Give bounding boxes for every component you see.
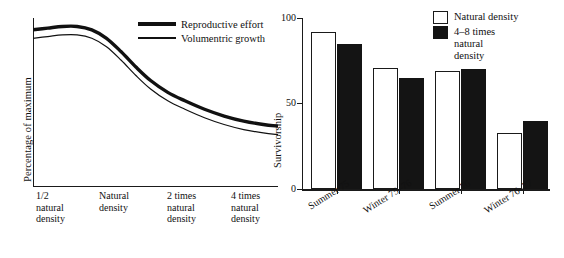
bar-summer-75-filled	[337, 44, 362, 189]
y-tick-label-50: 50	[270, 97, 296, 108]
x-tick-line2: natural	[36, 202, 65, 214]
x-group-tick-mark	[337, 189, 338, 194]
left-x-tick-labels: 1/2 natural density Natural density 2 ti…	[33, 190, 283, 252]
x-tick-label: 1/2 natural density	[36, 190, 65, 225]
x-tick-line1: 4 times	[231, 190, 260, 202]
x-tick-label: 2 times natural density	[167, 190, 196, 225]
y-tick-label-100: 100	[270, 12, 296, 23]
bar-winter-75-76-open	[373, 68, 398, 189]
x-tick-line2: natural	[167, 202, 196, 214]
bar-winter-75-76-filled	[399, 78, 424, 189]
x-group-tick-mark	[399, 189, 400, 194]
legend-label: Natural density	[454, 11, 518, 23]
open-square-swatch-icon	[433, 11, 448, 24]
figure-root: Percentage of maximum Reproductive effor…	[0, 0, 564, 258]
x-tick-line1: 1/2	[36, 190, 65, 202]
left-legend: Reproductive effort Volumentric growth	[138, 17, 280, 45]
legend-item-4-8-times-natural-density: 4–8 times natural density	[433, 26, 561, 63]
x-tick-line3: density	[36, 213, 65, 225]
x-tick-line3: density	[167, 213, 196, 225]
x-tick-label: Natural density	[99, 190, 129, 213]
legend-item-reproductive-effort: Reproductive effort	[138, 17, 280, 31]
bar-winter-76-77-open	[497, 133, 522, 189]
legend-label-line2: natural	[454, 38, 495, 50]
x-tick-line2: natural	[231, 202, 260, 214]
bar-summer-76-filled	[461, 69, 486, 189]
bar-summer-76-open	[435, 71, 460, 189]
x-tick-line3: density	[231, 213, 260, 225]
y-tick-mark-100	[297, 18, 302, 19]
thin-line-swatch-icon	[138, 37, 176, 38]
x-tick-line1: 2 times	[167, 190, 196, 202]
filled-square-swatch-icon	[433, 26, 448, 39]
y-tick-mark-50	[297, 103, 302, 104]
x-group-tick-mark	[523, 189, 524, 194]
right-legend: Natural density 4–8 times natural densit…	[433, 11, 561, 65]
left-y-axis-label: Percentage of maximum	[22, 77, 33, 182]
bar-summer-75-open	[311, 32, 336, 189]
legend-item-natural-density: Natural density	[433, 11, 561, 24]
x-tick-line1: Natural	[99, 190, 129, 202]
legend-item-volumentric-growth: Volumentric growth	[138, 31, 280, 45]
legend-label-line3: density	[454, 50, 495, 62]
x-group-tick-mark	[461, 189, 462, 194]
x-tick-label: 4 times natural density	[231, 190, 260, 225]
right-x-tick-labels: Summer 75 Winter 75–76 Summer 76 Winter …	[282, 192, 564, 258]
legend-label-line1: Natural density	[454, 11, 518, 22]
legend-label: Reproductive effort	[181, 19, 263, 30]
legend-label: Volumentric growth	[181, 33, 265, 44]
x-tick-line2: density	[99, 202, 129, 214]
thick-line-swatch-icon	[138, 22, 176, 26]
y-tick-mark-0	[297, 189, 302, 190]
line-chart-panel: Percentage of maximum Reproductive effor…	[0, 0, 282, 258]
legend-label: 4–8 times natural density	[454, 26, 495, 63]
legend-label-line1: 4–8 times	[454, 26, 495, 38]
right-y-axis-label: Survivorship	[272, 113, 283, 168]
